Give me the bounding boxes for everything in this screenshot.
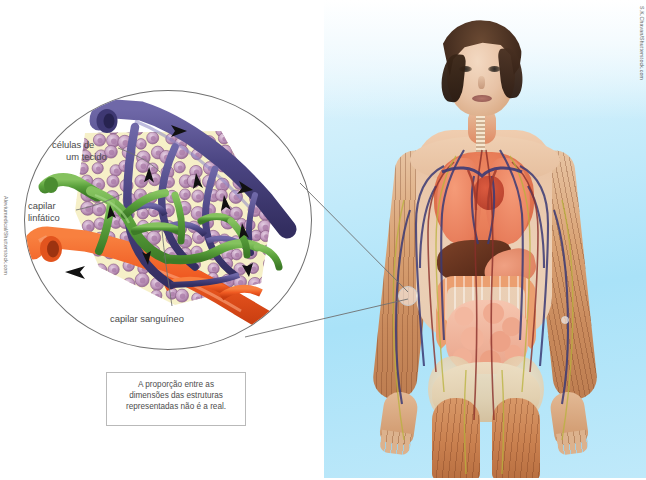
note-line-2: dimensões das estruturas bbox=[129, 391, 223, 400]
label-capilar-sanguineo: capilar sanguíneo bbox=[110, 313, 184, 325]
human-figure bbox=[324, 0, 646, 478]
scale-disclaimer-box: A proporção entre as dimensões das estru… bbox=[106, 372, 246, 426]
secondary-marker bbox=[562, 317, 569, 324]
credit-right: S.K.Chavan/Shutterstock.com bbox=[639, 6, 645, 80]
magnifier-circle bbox=[24, 90, 312, 350]
anatomy-photo-panel: S.K.Chavan/Shutterstock.com bbox=[324, 0, 646, 478]
illustration-stage: S.K.Chavan/Shutterstock.com bbox=[0, 0, 646, 480]
vascular-overlay bbox=[324, 0, 646, 478]
label-line-2: um tecido bbox=[52, 151, 107, 163]
label-celulas-de-um-tecido: células de um tecido bbox=[52, 139, 107, 162]
credit-left: Aleviumedical/Shutterstock.com bbox=[3, 196, 9, 275]
label-capilar-linfatico: capilar linfático bbox=[28, 200, 60, 223]
label-line-1: células de bbox=[52, 139, 107, 151]
magnified-region-marker bbox=[399, 287, 418, 306]
capillary-bed-diagram bbox=[25, 91, 311, 349]
label-line-1: capilar bbox=[28, 200, 60, 212]
note-line-3: representadas não é a real. bbox=[126, 402, 226, 411]
label-line-2: linfático bbox=[28, 212, 60, 224]
note-line-1: A proporção entre as bbox=[138, 380, 214, 389]
